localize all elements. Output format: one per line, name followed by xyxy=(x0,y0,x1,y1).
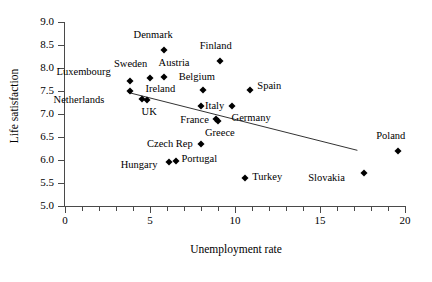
data-point-label: Germany xyxy=(232,112,271,123)
data-point-label: Denmark xyxy=(134,29,173,40)
data-point-label: Portugal xyxy=(182,153,218,164)
data-point-label: Netherlands xyxy=(54,94,105,105)
data-point-label: Czech Rep xyxy=(147,138,193,149)
data-point-label: Turkey xyxy=(252,171,282,182)
scatter-chart: 5.05.56.06.57.07.58.08.59.0 05101520 Lif… xyxy=(0,0,432,282)
data-point-label: Hungary xyxy=(121,159,158,170)
data-point-label: Sweden xyxy=(114,58,147,69)
data-point-label: Poland xyxy=(376,130,405,141)
plot-area: 5.05.56.06.57.07.58.08.59.0 05101520 Lif… xyxy=(0,0,432,282)
data-point-label: Belgium xyxy=(179,71,215,82)
data-point-label: Finland xyxy=(200,40,232,51)
data-point-label: Spain xyxy=(257,80,281,91)
data-point-label: Greece xyxy=(205,127,235,138)
data-point-label: Austria xyxy=(159,57,190,68)
data-point-label: Ireland xyxy=(146,83,176,94)
data-point-label: Slovakia xyxy=(308,172,345,183)
data-point-label: Italy xyxy=(205,100,224,111)
data-point-label: Luxembourg xyxy=(57,66,111,77)
data-point-label: France xyxy=(180,114,209,125)
data-point-label: UK xyxy=(142,106,157,117)
